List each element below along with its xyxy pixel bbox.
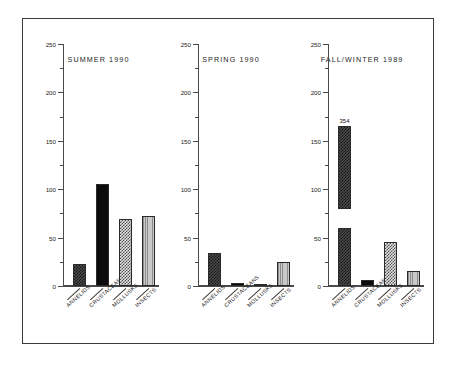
y-tick-label: 0 xyxy=(53,283,56,290)
y-axis xyxy=(198,44,199,286)
y-tick-major xyxy=(323,44,328,45)
figure-frame: SUMMER 1990 050100150200250ANNELIDSCRUST… xyxy=(22,18,434,344)
y-tick-label: 100 xyxy=(311,186,321,193)
y-tick-label: 150 xyxy=(46,137,56,144)
y-tick-major xyxy=(193,141,198,142)
y-tick-minor xyxy=(60,165,63,166)
y-tick-label: 100 xyxy=(181,186,191,193)
y-tick-major xyxy=(323,141,328,142)
y-tick-major xyxy=(323,189,328,190)
chart-panel-fall-winter: FALL/WINTER 1989 050100150200250354ANNEL… xyxy=(296,19,428,345)
y-axis xyxy=(328,44,329,286)
y-tick-major xyxy=(58,238,63,239)
y-tick-major xyxy=(323,92,328,93)
y-tick-minor xyxy=(195,165,198,166)
bar xyxy=(96,184,109,286)
y-tick-label: 0 xyxy=(318,283,321,290)
y-tick-major xyxy=(193,44,198,45)
category-label: ANNELIDS xyxy=(329,284,355,309)
y-tick-minor xyxy=(60,262,63,263)
y-tick-minor xyxy=(325,68,328,69)
y-tick-major xyxy=(58,44,63,45)
category-label: ANNELIDS xyxy=(64,284,90,309)
y-tick-major xyxy=(58,189,63,190)
y-tick-major xyxy=(193,92,198,93)
chart-panel-summer: SUMMER 1990 050100150200250ANNELIDSCRUST… xyxy=(31,19,166,345)
bar xyxy=(407,271,420,286)
y-tick-major xyxy=(323,238,328,239)
y-tick-label: 200 xyxy=(311,89,321,96)
bar xyxy=(142,216,155,286)
y-tick-minor xyxy=(195,213,198,214)
y-tick-label: 250 xyxy=(311,41,321,48)
y-tick-label: 100 xyxy=(46,186,56,193)
plot-area: 050100150200250ANNELIDSCRUSTACEANSMOLLUS… xyxy=(198,44,294,286)
bar xyxy=(73,264,86,286)
chart-panel-spring: SPRING 1990 050100150200250ANNELIDSCRUST… xyxy=(166,19,296,345)
y-tick-minor xyxy=(60,213,63,214)
y-tick-label: 250 xyxy=(181,41,191,48)
y-tick-minor xyxy=(195,262,198,263)
y-tick-label: 50 xyxy=(314,234,321,241)
y-tick-major xyxy=(58,141,63,142)
y-tick-minor xyxy=(60,117,63,118)
y-tick-major xyxy=(58,286,63,287)
y-tick-label: 50 xyxy=(49,234,56,241)
y-tick-minor xyxy=(60,68,63,69)
y-tick-major xyxy=(193,189,198,190)
bar xyxy=(384,242,397,286)
y-tick-label: 200 xyxy=(46,89,56,96)
bar-value-label: 354 xyxy=(339,118,349,124)
y-tick-minor xyxy=(325,117,328,118)
plot-area: 050100150200250354ANNELIDSCRUSTACEANSMOL… xyxy=(328,44,424,286)
y-tick-minor xyxy=(195,68,198,69)
bar xyxy=(119,219,132,286)
bar-segment-lower xyxy=(338,228,351,286)
y-tick-minor xyxy=(195,117,198,118)
y-tick-label: 150 xyxy=(181,137,191,144)
y-tick-label: 0 xyxy=(188,283,191,290)
y-tick-label: 50 xyxy=(184,234,191,241)
bar-segment-upper xyxy=(338,126,351,208)
y-tick-label: 150 xyxy=(311,137,321,144)
y-tick-major xyxy=(323,286,328,287)
bar xyxy=(277,262,290,286)
y-tick-major xyxy=(193,286,198,287)
y-tick-minor xyxy=(325,213,328,214)
y-tick-label: 200 xyxy=(181,89,191,96)
y-tick-major xyxy=(193,238,198,239)
y-axis xyxy=(63,44,64,286)
category-label: ANNELIDS xyxy=(199,284,225,309)
y-tick-minor xyxy=(325,165,328,166)
bar xyxy=(208,253,221,286)
y-tick-major xyxy=(58,92,63,93)
plot-area: 050100150200250ANNELIDSCRUSTACEANSMOLLUS… xyxy=(63,44,159,286)
y-tick-label: 250 xyxy=(46,41,56,48)
y-tick-minor xyxy=(325,262,328,263)
